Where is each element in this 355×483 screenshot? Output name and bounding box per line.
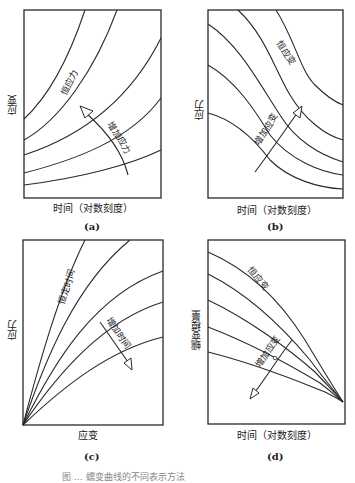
panel-c-xlabel: 应变 xyxy=(78,431,98,441)
panel-c-arrow-label: 增加时间 xyxy=(104,315,133,351)
panel-b-curve-5 xyxy=(208,113,343,189)
figure-caption: 图 … 蠕变曲线的不同表示方法 xyxy=(62,470,185,483)
panel-a-curve-1 xyxy=(24,10,85,119)
panel-b-subfigure-label: (b) xyxy=(267,221,283,232)
panel-d-curve-3 xyxy=(208,300,343,402)
panel-d-marker xyxy=(273,356,277,360)
panel-d-arrowhead-icon xyxy=(250,388,259,399)
panel-b-curve-2 xyxy=(238,10,343,140)
panel-b-curve-label: 恒应变 xyxy=(274,38,298,67)
panel-a-curve-label: 恒应力 xyxy=(58,68,80,97)
panel-d-xlabel: 时间（对数刻度） xyxy=(237,431,317,441)
panel-c-ylabel: 应力 xyxy=(8,320,18,340)
panel-a-frame xyxy=(24,10,161,198)
panel-c-curve-label: 恒定时间 xyxy=(55,268,77,306)
panel-a-ylabel: 应变 xyxy=(8,95,18,115)
panel-d-plot: 恒应变 增加应变 xyxy=(208,240,345,424)
panel-b-plot: 恒应变 增加应变 xyxy=(208,10,343,198)
panel-b-xlabel: 时间（对数刻度） xyxy=(237,206,317,216)
panel-d-curve-label: 恒应变 xyxy=(245,264,271,292)
panel-a-subfigure-label: (a) xyxy=(84,221,100,232)
panel-a-arrowhead-icon xyxy=(80,106,93,118)
panel-d-subfigure-label: (d) xyxy=(267,451,283,462)
panel-a-curve-3 xyxy=(24,38,161,155)
panel-d-arrow-label: 增加应变 xyxy=(253,333,283,369)
panel-c-subfigure-label: (c) xyxy=(84,451,100,462)
panel-c-plot: 恒定时间 增加时间 xyxy=(23,240,163,425)
panel-d-frame xyxy=(208,240,345,424)
panel-d-ylabel: 蠕变模量 xyxy=(192,310,202,350)
panel-a-xlabel: 时间（对数刻度） xyxy=(53,204,133,214)
panel-c-arrowhead-icon xyxy=(124,358,132,370)
panel-a-plot: 恒应力 增加应力 xyxy=(24,10,161,198)
panel-a-curve-4 xyxy=(24,98,161,173)
panel-c-curve-4 xyxy=(23,302,163,425)
panel-c-frame xyxy=(23,240,163,425)
panel-b-ylabel: 应力 xyxy=(195,100,205,120)
panel-b-frame xyxy=(208,10,343,198)
